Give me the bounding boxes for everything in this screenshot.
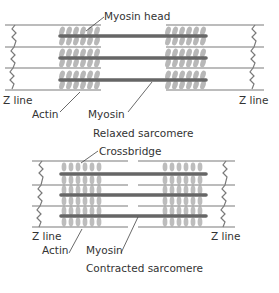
contracted-sarcomere: Crossbridge Z line Z line Actin Myosin C… <box>32 145 240 274</box>
label-z-line-right-contracted: Z line <box>211 230 240 242</box>
relaxed-z-line-right <box>250 25 256 89</box>
label-z-line-left: Z line <box>3 94 32 106</box>
label-actin: Actin <box>32 108 58 120</box>
contracted-z-line-left <box>37 161 43 227</box>
contracted-z-line-right <box>221 161 227 227</box>
caption-contracted: Contracted sarcomere <box>86 262 203 274</box>
relaxed-z-line-left <box>10 25 16 89</box>
label-myosin-head: Myosin head <box>104 10 170 22</box>
label-z-line-left-contracted: Z line <box>32 230 61 242</box>
relaxed-sarcomere: Myosin head Z line Z line Actin Myosin R… <box>3 10 268 139</box>
label-myosin: Myosin <box>88 108 125 120</box>
label-myosin-contracted: Myosin <box>86 244 123 256</box>
label-z-line-right: Z line <box>239 94 268 106</box>
label-crossbridge: Crossbridge <box>99 145 161 157</box>
sarcomere-diagram: Myosin head Z line Z line Actin Myosin R… <box>0 0 279 293</box>
caption-relaxed: Relaxed sarcomere <box>93 127 193 139</box>
label-actin-contracted: Actin <box>42 244 68 256</box>
